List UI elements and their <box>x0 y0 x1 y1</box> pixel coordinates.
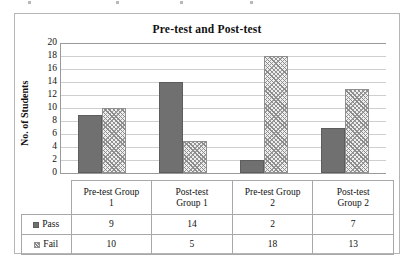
bar-pass[interactable] <box>159 82 183 173</box>
bar-fail[interactable] <box>264 56 288 173</box>
bar-fail[interactable] <box>102 108 126 173</box>
solid-square-icon <box>33 222 39 228</box>
category-label-line2: Group 1 <box>176 198 207 208</box>
bar-pass[interactable] <box>240 160 264 173</box>
chart-title: Pre-test and Post-test <box>15 23 399 35</box>
category-label-line1: Post-test <box>176 187 209 197</box>
y-tick-label: 0 <box>52 168 57 178</box>
y-axis-tick-labels: 20 18 16 14 12 10 8 6 4 2 0 <box>33 43 57 174</box>
bar-pass[interactable] <box>78 115 102 174</box>
y-tick-label: 2 <box>52 155 57 165</box>
y-tick-label: 8 <box>52 116 57 126</box>
y-tick-label: 10 <box>48 103 58 113</box>
table-corner-cell <box>22 181 72 215</box>
bar-group-pre-test-group-2 <box>223 43 304 173</box>
plot-region: No. of Students 20 18 16 14 12 10 8 6 4 … <box>15 43 401 179</box>
y-tick-label: 14 <box>48 77 58 87</box>
table-cell-value: 14 <box>152 215 233 235</box>
y-tick-label: 4 <box>52 142 57 152</box>
table-cell-value: 2 <box>232 215 313 235</box>
category-header-cell: Pre-test Group 1 <box>71 181 152 215</box>
category-label-line1: Post-test <box>337 187 370 197</box>
table-cell-value: 7 <box>313 215 394 235</box>
y-tick-label: 16 <box>48 64 58 74</box>
category-label-line2: 1 <box>109 198 114 208</box>
category-label-line1: Pre-test Group <box>83 187 139 197</box>
bar-fail[interactable] <box>183 141 207 174</box>
table-row-fail: Fail 10 5 18 13 <box>22 235 394 255</box>
y-tick-label: 20 <box>48 38 58 48</box>
chart-data-table: Pre-test Group 1 Post-test Group 1 Pre-t… <box>21 180 394 255</box>
table-cell-value: 13 <box>313 235 394 255</box>
table-row-pass: Pass 9 14 2 7 <box>22 215 394 235</box>
category-header-cell: Pre-test Group 2 <box>232 181 313 215</box>
table-row-categories: Pre-test Group 1 Post-test Group 1 Pre-t… <box>22 181 394 215</box>
bar-group-pre-test-group-1 <box>61 43 142 173</box>
table-cell-value: 10 <box>71 235 152 255</box>
y-tick-label: 18 <box>48 51 58 61</box>
chart-frame: Pre-test and Post-test No. of Students 2… <box>14 13 400 254</box>
plot-area <box>60 43 386 174</box>
category-header-cell: Post-test Group 1 <box>152 181 233 215</box>
y-axis-title: No. of Students <box>17 63 31 163</box>
legend-entry-fail: Fail <box>22 235 72 255</box>
legend-label-pass: Pass <box>42 219 59 229</box>
bar-fail[interactable] <box>345 89 369 174</box>
bar-group-post-test-group-1 <box>142 43 223 173</box>
legend-label-fail: Fail <box>43 239 58 249</box>
category-label-line2: Group 2 <box>337 198 368 208</box>
category-label-line1: Pre-test Group <box>245 187 301 197</box>
bars-layer <box>61 43 386 173</box>
table-cell-value: 5 <box>152 235 233 255</box>
y-tick-label: 12 <box>48 90 58 100</box>
category-header-cell: Post-test Group 2 <box>313 181 394 215</box>
table-cell-value: 18 <box>232 235 313 255</box>
hatched-square-icon <box>34 242 40 248</box>
y-tick-label: 6 <box>52 129 57 139</box>
table-cell-value: 9 <box>71 215 152 235</box>
bar-group-post-test-group-2 <box>304 43 385 173</box>
legend-entry-pass: Pass <box>22 215 72 235</box>
bar-pass[interactable] <box>321 128 345 174</box>
category-label-line2: 2 <box>270 198 275 208</box>
scan-artifacts <box>0 0 414 14</box>
